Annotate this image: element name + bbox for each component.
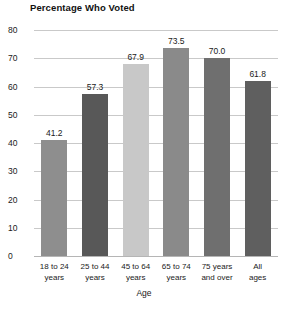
bar-value-label: 73.5 [156, 37, 196, 46]
gridline-20 [34, 200, 278, 201]
x-axis-title: Age [0, 288, 288, 298]
y-tick-label: 20 [8, 196, 30, 205]
x-tick-label-line: ages [234, 273, 282, 284]
bar-value-label: 57.3 [75, 83, 115, 92]
gridline-40 [34, 143, 278, 144]
gridline-0 [34, 256, 278, 257]
y-tick-label: 30 [8, 167, 30, 176]
bar-value-label: 41.2 [34, 129, 74, 138]
bar-value-label: 61.8 [238, 70, 278, 79]
x-tick-label: Allages [234, 262, 282, 283]
bar[interactable] [245, 81, 271, 256]
gridline-60 [34, 87, 278, 88]
plot-area: 41.257.367.973.570.061.8 [34, 30, 278, 256]
bar[interactable] [204, 58, 230, 256]
y-tick-label: 10 [8, 224, 30, 233]
x-tick-label-line: All [234, 262, 282, 273]
bar-value-label: 70.0 [197, 47, 237, 56]
gridline-70 [34, 58, 278, 59]
y-tick-label: 40 [8, 139, 30, 148]
bar[interactable] [82, 94, 108, 256]
y-tick-label: 0 [8, 252, 30, 261]
gridline-10 [34, 228, 278, 229]
chart-title: Percentage Who Voted [30, 2, 135, 13]
bar-chart: Percentage Who Voted 41.257.367.973.570.… [0, 0, 288, 313]
y-tick-label: 50 [8, 111, 30, 120]
bar[interactable] [163, 48, 189, 256]
y-tick-label: 70 [8, 54, 30, 63]
gridline-80 [34, 30, 278, 31]
bar-value-label: 67.9 [116, 53, 156, 62]
y-tick-label: 60 [8, 83, 30, 92]
bar[interactable] [41, 140, 67, 256]
gridline-50 [34, 115, 278, 116]
bar[interactable] [123, 64, 149, 256]
gridline-30 [34, 171, 278, 172]
y-tick-label: 80 [8, 26, 30, 35]
